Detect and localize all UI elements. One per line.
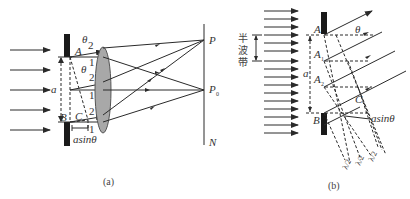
panel-a: a A θ θ B C asinθ 2 1: [10, 24, 219, 188]
svg-text:2: 2: [88, 39, 94, 51]
label-A-b: A: [313, 23, 321, 35]
svg-text:2: 2: [89, 105, 95, 117]
incident-light-rays-b: [264, 11, 298, 133]
half-wave-zone-bracket: 半 波 带: [238, 32, 262, 68]
label-a: a: [51, 83, 57, 95]
lambda-half-labels: λ/2 λ/2 λ/2: [341, 150, 379, 171]
caption-b: (b): [328, 180, 340, 192]
svg-text:2: 2: [321, 81, 324, 87]
svg-text:1: 1: [89, 56, 95, 68]
incident-light-rays: [10, 50, 50, 130]
svg-text:半: 半: [238, 32, 248, 44]
label-P0: P: [208, 83, 216, 95]
label-C-b: C: [355, 93, 363, 105]
label-asin-theta-b: asinθ: [371, 112, 395, 124]
label-N: N: [208, 136, 217, 148]
svg-text:λ/2: λ/2: [367, 150, 379, 163]
focused-rays: [103, 40, 204, 122]
caption-a: (a): [103, 176, 114, 188]
slit-top-b: [321, 12, 327, 34]
svg-text:带: 带: [238, 57, 248, 68]
label-B-b: B: [313, 114, 320, 126]
label-A: A: [74, 45, 82, 57]
label-A2: A: [313, 73, 321, 85]
slit: [64, 34, 70, 146]
asin-leader: [345, 116, 370, 119]
svg-text:2: 2: [89, 71, 95, 83]
svg-text:λ/2: λ/2: [341, 158, 353, 171]
panel-b: 半 波 带 a: [238, 11, 406, 192]
svg-text:0: 0: [216, 91, 219, 97]
svg-text:1: 1: [89, 89, 95, 101]
svg-text:a: a: [303, 67, 309, 79]
label-A1: A: [313, 48, 321, 60]
svg-text:1: 1: [321, 56, 324, 62]
svg-text:1: 1: [89, 123, 95, 135]
label-B: B: [60, 111, 67, 123]
label-theta-mid: θ: [81, 63, 87, 75]
label-C: C: [75, 110, 83, 122]
svg-text:λ/2: λ/2: [354, 154, 366, 167]
svg-text:波: 波: [238, 44, 248, 56]
label-theta-b: θ: [355, 23, 361, 35]
diffraction-diagram: a A θ θ B C asinθ 2 1: [0, 0, 410, 199]
label-P: P: [208, 34, 216, 46]
